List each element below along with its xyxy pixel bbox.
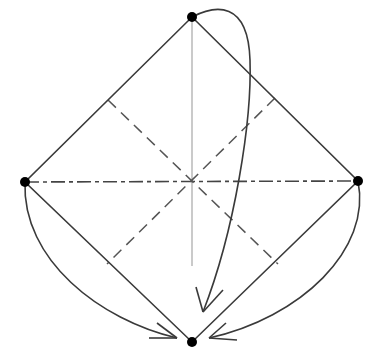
- diagram-canvas: [0, 0, 372, 357]
- origami-diagram: Origami folding diagram: square base wit…: [0, 0, 372, 357]
- arrowhead-top-to-bottom: [196, 287, 223, 312]
- point-bottom: [187, 337, 197, 347]
- arrow-top-to-bottom: [192, 9, 250, 312]
- point-top: [187, 12, 197, 22]
- point-left: [20, 177, 30, 187]
- arrow-left-to-bottom: [25, 182, 177, 338]
- arrow-right-to-bottom: [209, 181, 360, 338]
- point-right: [353, 176, 363, 186]
